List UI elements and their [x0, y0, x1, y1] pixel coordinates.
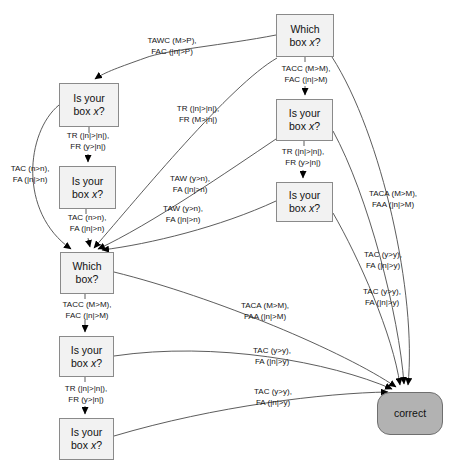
- edge-label-tr-fr-m: TR (|n|>|n|), FR (M>|n|): [177, 104, 219, 125]
- node-is-your-box-right-2: Is your box x?: [276, 182, 333, 222]
- node-text-line2: box x?: [289, 202, 320, 215]
- node-text-line1: Is your: [73, 92, 105, 105]
- edge-label-tacc-fac-right: TACC (M>M), FAC (|n|>M): [282, 64, 331, 85]
- edge-whichbox-to-correct: [114, 272, 396, 387]
- edge-label-tacc-fac-left: TACC (M>M), FAC (|n|>M): [63, 300, 112, 321]
- edge-label-tac-fa-correct-3: TAC (y>y), FA (|n|>y): [253, 346, 291, 367]
- node-is-your-box-bottom-2: Is your box x?: [59, 418, 114, 460]
- edge-label-tawc-fac: TAWC (M>P), FAC (|n|>P): [147, 36, 196, 57]
- node-which-box-x-top-right: Which box x?: [276, 14, 334, 57]
- node-text-line2: box x?: [290, 36, 321, 49]
- node-is-your-box-left-2: Is your box x?: [59, 166, 116, 209]
- node-text-line2: box x?: [74, 105, 105, 118]
- node-correct: correct: [377, 392, 443, 435]
- edge-label-tac-fa-correct-4: TAC (y>y), FA (|n|>y): [254, 387, 292, 408]
- edge-label-tac-fa-left-column: TAC (n>n), FA (|n|>n): [68, 213, 107, 234]
- node-text-line1: Which: [290, 23, 319, 36]
- edge-label-tr-fr-right: TR (|n|>|n|), FR (y>|n|): [282, 147, 324, 168]
- node-which-box-middle: Which box?: [60, 252, 114, 294]
- edge-label-taw-fa-2: TAW (y>n), FA (|n|>n): [163, 204, 203, 225]
- edge-bottombox2-to-correct: [114, 392, 388, 436]
- node-text-line2: box x?: [71, 357, 102, 370]
- edge-label-taca-faa-right: TACA (M>M), FAA (|n|>M): [369, 189, 417, 210]
- node-text-line1: correct: [394, 407, 426, 420]
- edge-label-tr-fr-bottom: TR (|n|>|n|), FR (y>|n|): [65, 384, 107, 405]
- node-text-line1: Is your: [289, 189, 321, 202]
- transition-diagram: Which box x? Is your box x? Is your box …: [0, 0, 454, 474]
- node-is-your-box-left-1: Is your box x?: [59, 83, 119, 127]
- node-text-line1: Is your: [72, 175, 104, 188]
- node-text-line2: box x?: [71, 439, 102, 452]
- node-text-line2: box?: [76, 273, 99, 286]
- node-text-line2: box x?: [289, 120, 320, 133]
- node-text-line2: box x?: [72, 188, 103, 201]
- node-text-line1: Is your: [71, 344, 103, 357]
- node-text-line1: Is your: [71, 426, 103, 439]
- node-is-your-box-right-1: Is your box x?: [276, 99, 333, 141]
- edge-label-tac-fa-correct-1: TAC (y>y), FA (|n|>y): [364, 250, 402, 271]
- edge-label-taca-faa-middle: TACA (M>M), FAA (|n|>M): [241, 301, 289, 322]
- edge-label-tr-fr-left-1: TR (|n|>|n|), FR (y>|n|): [67, 131, 109, 152]
- edge-label-taw-fa-1: TAW (y>n), FA (|n|>n): [170, 174, 210, 195]
- node-is-your-box-bottom-1: Is your box x?: [59, 336, 114, 377]
- node-text-line1: Which: [72, 260, 101, 273]
- edge-label-tac-fa-correct-2: TAC (y>y), FA (|n|>y): [363, 287, 401, 308]
- node-text-line1: Is your: [289, 107, 321, 120]
- edge-label-tac-fa-far-left: TAC (n>n), FA (|n|>n): [11, 164, 50, 185]
